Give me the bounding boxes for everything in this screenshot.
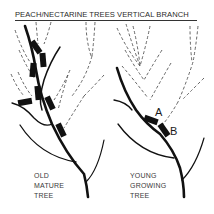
tree-illustrations xyxy=(0,0,214,214)
pruning-diagram: PEACH/NECTARINE TREES VERTICAL BRANCH xyxy=(0,0,214,214)
caption-line: TREE xyxy=(34,191,64,201)
caption-line: OLD xyxy=(34,171,64,181)
marker-a-label: A xyxy=(155,107,162,118)
right-tree-fruit-buds xyxy=(143,115,170,138)
left-tree-dashed-shoots xyxy=(11,22,104,128)
right-tree-caption: YOUNG GROWING TREE xyxy=(130,171,166,201)
caption-line: GROWING xyxy=(130,181,166,191)
caption-line: YOUNG xyxy=(130,171,166,181)
left-tree-caption: OLD MATURE TREE xyxy=(34,171,64,201)
caption-line: TREE xyxy=(130,191,166,201)
caption-line: MATURE xyxy=(34,181,64,191)
marker-b-label: B xyxy=(170,126,177,137)
